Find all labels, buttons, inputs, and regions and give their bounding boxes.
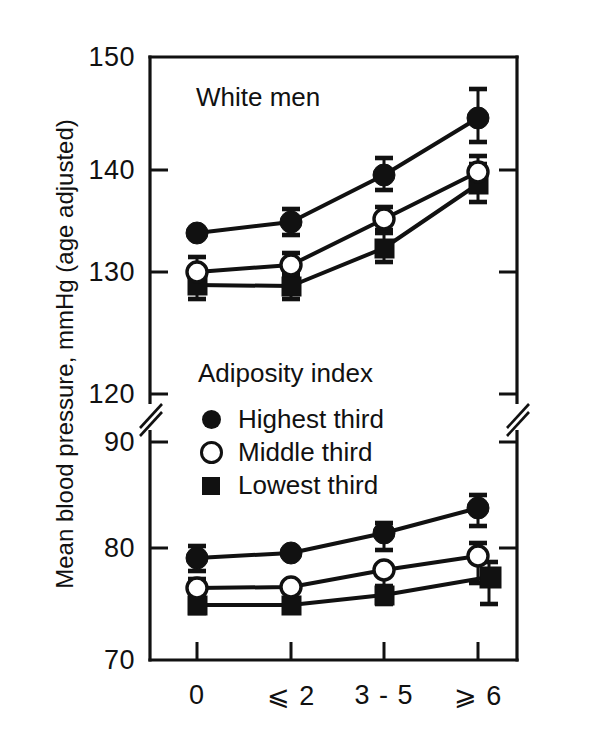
chart-figure: 150 140 130 120 90 80 70 0 ⩽ 2 3 - 5 ⩾ 6…	[0, 0, 596, 748]
lower-panel-series	[186, 494, 501, 615]
y-tick-label-70: 70	[55, 645, 135, 676]
errorbars-lowest-third-upper	[188, 163, 487, 300]
y-axis-label: Mean blood pressure, mmHg (age adjusted)	[51, 74, 79, 634]
upper-panel-series	[186, 88, 489, 300]
markers-lowest-third-lower	[188, 567, 501, 615]
line-lowest-third-lower	[197, 577, 489, 605]
x-axis-ticks	[197, 642, 478, 660]
filled-circle-icon	[198, 407, 224, 433]
legend-item-middle-third: Middle third	[198, 436, 384, 469]
x-tick-label-le2: ⩽ 2	[241, 680, 341, 712]
y-tick-label-150: 150	[55, 42, 135, 73]
panel-title: White men	[196, 82, 320, 113]
markers-highest-third-upper	[186, 107, 489, 244]
y-axis-ticks-right	[499, 170, 517, 548]
legend-item-highest-third: Highest third	[198, 403, 384, 436]
markers-lowest-third-upper	[188, 175, 488, 296]
x-tick-label-ge6: ⩾ 6	[428, 680, 528, 712]
legend-label-middle-third: Middle third	[238, 437, 372, 468]
filled-square-icon	[198, 473, 224, 499]
x-tick-label-3-5: 3 - 5	[334, 680, 434, 711]
legend-label-lowest-third: Lowest third	[238, 470, 378, 501]
y-axis-ticks	[150, 170, 168, 548]
line-highest-third-lower	[197, 508, 478, 558]
markers-middle-third-lower	[187, 546, 488, 598]
chart-legend: Adiposity index Highest third Middle thi…	[198, 358, 384, 502]
line-middle-third-upper	[197, 172, 478, 272]
open-circle-icon	[198, 440, 224, 466]
legend-item-lowest-third: Lowest third	[198, 469, 384, 502]
legend-label-highest-third: Highest third	[238, 404, 384, 435]
legend-title: Adiposity index	[198, 358, 384, 389]
markers-highest-third-lower	[186, 497, 489, 569]
line-middle-third-lower	[197, 556, 478, 588]
line-highest-third-upper	[197, 118, 478, 233]
markers-middle-third-upper	[187, 162, 488, 282]
x-tick-label-0: 0	[147, 680, 247, 711]
